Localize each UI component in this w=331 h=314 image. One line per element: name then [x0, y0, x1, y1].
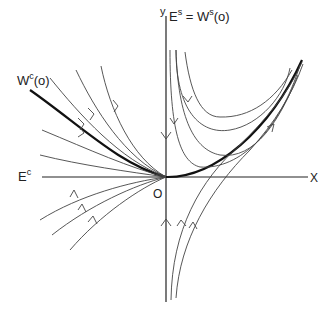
- phase-portrait-diagram: y Es = Ws(o) Wc(o) Ec X O: [0, 0, 331, 314]
- trajectory-upper-left-2: [76, 70, 166, 177]
- center-manifold-superscript: c: [29, 71, 34, 81]
- stable-space-superscript: s: [178, 7, 183, 17]
- arrow-icon: [78, 204, 86, 212]
- center-manifold-label: Wc(o): [17, 74, 50, 87]
- trajectory-upper-right-1: [176, 50, 298, 155]
- center-manifold-argument: (o): [34, 73, 50, 88]
- arrow-icon: [70, 190, 78, 198]
- center-space-superscript: c: [27, 167, 32, 177]
- stable-space-label: Es = Ws(o): [169, 10, 230, 23]
- trajectory-lower-left-1: [40, 177, 166, 220]
- arrow-icon: [113, 100, 118, 112]
- flow-arrows: [70, 96, 274, 229]
- stable-manifold-superscript: s: [209, 7, 214, 17]
- arrow-icon: [88, 216, 97, 224]
- stable-manifold-argument: (o): [214, 9, 230, 24]
- stable-space-symbol: E: [169, 9, 178, 24]
- trajectory-lower-left-3: [70, 177, 166, 250]
- arrow-icon: [189, 222, 197, 229]
- x-axis-label: X: [310, 172, 318, 184]
- y-axis-label: y: [160, 6, 166, 17]
- origin-label: O: [153, 188, 162, 200]
- trajectory-lower-right-2: [176, 64, 303, 298]
- center-space-label: Ec: [18, 170, 31, 183]
- stable-manifold-symbol: = W: [182, 9, 209, 24]
- arrow-icon: [88, 108, 94, 120]
- center-manifold-symbol: W: [17, 73, 29, 88]
- phase-portrait-canvas: [0, 0, 331, 314]
- center-space-symbol: E: [18, 169, 27, 184]
